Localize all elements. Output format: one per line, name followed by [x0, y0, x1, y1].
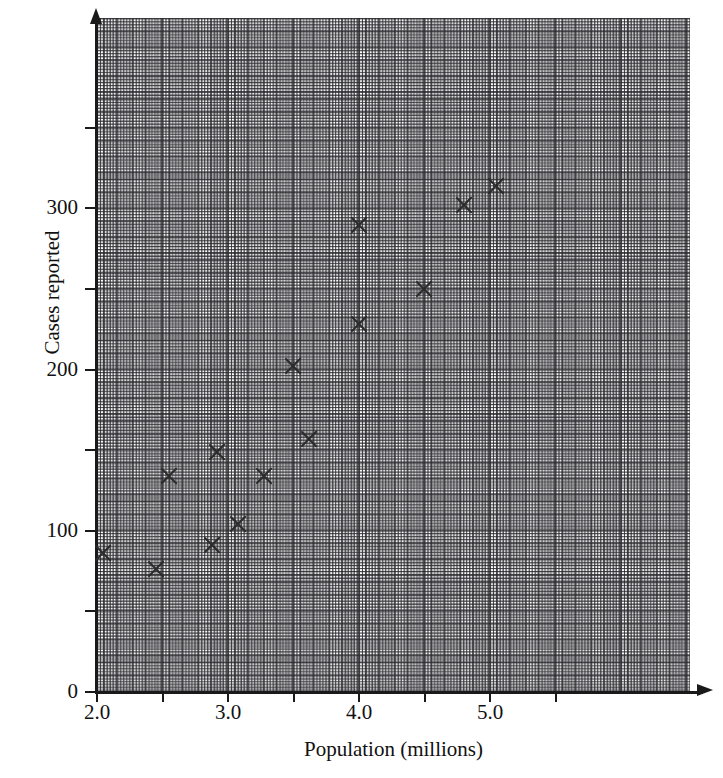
x-axis-tick — [424, 692, 426, 702]
x-axis-tick — [555, 692, 557, 702]
x-axis-tick-label: 4.0 — [324, 700, 394, 725]
data-point-marker — [298, 428, 320, 450]
y-axis-tick — [85, 530, 96, 532]
x-axis-line — [95, 691, 703, 694]
data-point-marker — [201, 534, 223, 556]
y-axis-arrow-icon — [90, 8, 102, 24]
data-point-marker — [158, 465, 180, 487]
x-axis-title: Population (millions) — [97, 737, 690, 762]
y-axis-tick-label: 100 — [12, 518, 78, 543]
data-point-marker — [414, 278, 436, 300]
data-point-marker — [145, 558, 167, 580]
data-point-marker — [283, 355, 305, 377]
y-axis-tick — [85, 369, 96, 371]
x-axis-arrow-icon — [697, 684, 713, 696]
x-axis-tick — [293, 692, 295, 702]
data-point-marker — [348, 313, 370, 335]
scatter-plot-figure: 2.03.04.05.0 0100200300 Population (mill… — [0, 0, 723, 778]
y-axis-tick — [85, 127, 96, 129]
data-point-marker — [348, 214, 370, 236]
x-axis-tick-label: 5.0 — [455, 700, 525, 725]
y-axis-tick-label: 0 — [12, 679, 78, 704]
y-axis-line — [95, 22, 98, 693]
x-axis-tick — [162, 692, 164, 702]
y-axis-tick — [85, 691, 96, 693]
y-axis-tick — [85, 610, 96, 612]
data-point-marker — [486, 175, 508, 197]
y-axis-title: Cases reported — [40, 163, 65, 423]
x-axis-tick-label: 3.0 — [193, 700, 263, 725]
data-point-marker — [207, 441, 229, 463]
data-point-marker — [254, 465, 276, 487]
y-axis-tick — [85, 207, 96, 209]
data-point-marker — [453, 194, 475, 216]
plot-grid-area — [97, 18, 690, 692]
data-point-marker — [227, 513, 249, 535]
y-axis-tick — [85, 288, 96, 290]
y-axis-tick — [85, 449, 96, 451]
data-point-marker — [93, 542, 115, 564]
